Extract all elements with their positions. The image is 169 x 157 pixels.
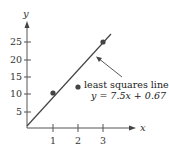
y-tick-label: 15 bbox=[10, 71, 22, 82]
data-point bbox=[50, 90, 55, 95]
x-axis-label: x bbox=[140, 122, 146, 133]
y-axis-label: y bbox=[22, 8, 29, 19]
x-axis-arrow-icon bbox=[129, 126, 136, 131]
y-tick-label: 10 bbox=[10, 88, 22, 99]
data-point bbox=[75, 84, 80, 89]
y-tick-label: 20 bbox=[10, 54, 22, 65]
annotation-label: least squares line bbox=[84, 79, 169, 90]
y-tick-label: 25 bbox=[10, 36, 22, 47]
annotation-equation: y = 7.5x + 0.67 bbox=[90, 90, 167, 101]
y-tick-label: 5 bbox=[16, 106, 22, 117]
x-tick-label: 3 bbox=[100, 135, 106, 146]
x-tick-label: 2 bbox=[75, 135, 81, 146]
y-axis-arrow-icon bbox=[25, 21, 30, 28]
annotation-arrow bbox=[98, 58, 122, 77]
arrowhead-icon bbox=[96, 57, 102, 63]
scatter-chart: y x 5 10 15 20 25 1 2 3 least squares li… bbox=[0, 0, 169, 157]
x-tick-label: 1 bbox=[50, 135, 56, 146]
data-point bbox=[100, 39, 105, 44]
